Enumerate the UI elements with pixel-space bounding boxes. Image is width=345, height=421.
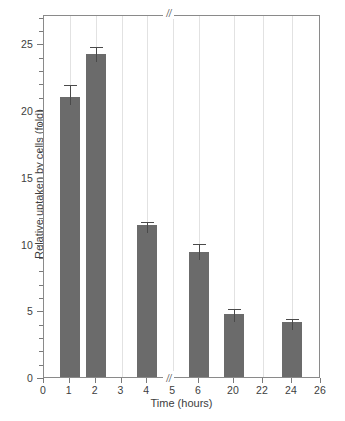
x-axis-tick-label: 20 xyxy=(227,384,239,396)
x-axis-tick xyxy=(233,378,234,383)
x-axis-tick-label: 4 xyxy=(143,384,149,396)
error-bar-line xyxy=(147,222,148,233)
gridline xyxy=(173,16,174,377)
x-axis-tick xyxy=(262,378,263,383)
error-bar-cap xyxy=(141,222,154,223)
x-axis-tick xyxy=(43,378,44,383)
x-axis-tick xyxy=(146,378,147,383)
error-bar-line xyxy=(96,47,97,62)
error-bar-cap xyxy=(286,319,299,320)
gridline xyxy=(122,16,123,377)
x-axis-tick xyxy=(198,378,199,383)
error-bar-cap xyxy=(64,85,77,86)
y-axis-tick-label: 15 xyxy=(5,172,33,184)
x-axis-tick-label: 26 xyxy=(314,384,326,396)
y-axis-tick-label: 5 xyxy=(5,305,33,317)
bar xyxy=(137,225,157,377)
error-bar-line xyxy=(199,244,200,260)
bar xyxy=(86,54,106,377)
error-bar-cap xyxy=(90,47,103,48)
x-axis-tick-label: 0 xyxy=(40,384,46,396)
x-axis-tick xyxy=(320,378,321,383)
x-axis-tick-label: 24 xyxy=(285,384,297,396)
y-axis-tick-label: 20 xyxy=(5,105,33,117)
y-axis-tick-label: 25 xyxy=(5,38,33,50)
error-bar-line xyxy=(234,309,235,322)
chart-figure: Relative uptaken by cells (fold) 0510152… xyxy=(0,0,345,421)
x-axis-tick-label: 3 xyxy=(117,384,123,396)
x-axis-title: Time (hours) xyxy=(43,397,320,409)
x-axis-tick xyxy=(121,378,122,383)
error-bar-cap xyxy=(228,309,241,310)
gridline xyxy=(263,16,264,377)
axis-break-bottom-icon: // xyxy=(163,371,174,384)
x-axis-tick-label: 1 xyxy=(66,384,72,396)
x-axis-tick xyxy=(291,378,292,383)
x-axis-tick xyxy=(69,378,70,383)
axis-break-top-icon: // xyxy=(163,6,174,19)
error-bar-line xyxy=(292,319,293,330)
plot-frame xyxy=(43,15,320,378)
bar xyxy=(189,252,209,377)
bar xyxy=(282,322,302,377)
bar xyxy=(224,314,244,377)
x-axis-tick-label: 22 xyxy=(256,384,268,396)
error-bar-cap xyxy=(193,244,206,245)
error-bar-line xyxy=(70,85,71,104)
plot-area xyxy=(44,16,319,377)
x-axis-tick-label: 6 xyxy=(195,384,201,396)
x-axis-tick-label: 5 xyxy=(169,384,175,396)
y-axis-tick-label: 10 xyxy=(5,239,33,251)
x-axis-tick xyxy=(95,378,96,383)
bar xyxy=(60,97,80,377)
y-axis-tick-label: 0 xyxy=(5,372,33,384)
x-axis-tick-label: 2 xyxy=(92,384,98,396)
